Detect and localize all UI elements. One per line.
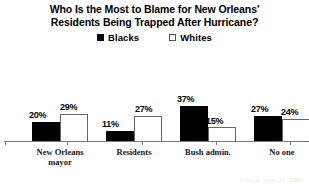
category-label-no-one: No one	[232, 147, 309, 157]
bar-value-label-whites-2: 15%	[206, 116, 223, 126]
bar-blacks-0	[32, 122, 60, 142]
legend-label-whites: Whites	[180, 32, 212, 43]
bar-value-label-blacks-1: 11%	[102, 119, 119, 129]
bar-wrap-whites-2: 15%	[208, 52, 236, 142]
bar-wrap-whites-0: 29%	[60, 52, 88, 142]
x-axis-line	[4, 141, 305, 142]
x-axis-tick	[67, 141, 68, 145]
bar-value-label-whites-0: 29%	[60, 102, 77, 112]
legend-item-whites: Whites	[169, 32, 212, 43]
bar-value-label-blacks-3: 27%	[251, 104, 268, 114]
bar-wrap-whites-3: 24%	[282, 52, 309, 142]
x-axis-tick	[5, 141, 6, 145]
legend-label-blacks: Blacks	[108, 32, 139, 43]
bar-whites-3	[282, 119, 309, 142]
bar-chart-figure: Who Is the Most to Blame for New Orleans…	[0, 0, 309, 184]
bar-whites-2	[208, 127, 236, 142]
bar-wrap-blacks-2: 37%	[180, 52, 208, 142]
bar-whites-1	[134, 116, 162, 142]
bar-wrap-whites-1: 27%	[134, 52, 162, 142]
bar-blacks-3	[254, 116, 282, 142]
chart-legend: Blacks Whites	[0, 32, 309, 43]
x-axis-tick	[290, 141, 291, 145]
bar-value-label-whites-1: 27%	[135, 104, 152, 114]
bar-value-label-whites-3: 24%	[281, 107, 298, 117]
bar-wrap-blacks-1: 11%	[106, 52, 134, 142]
x-axis-category-labels: New Orleans mayor Residents Bush admin. …	[0, 147, 309, 171]
bar-value-label-blacks-2: 37%	[177, 94, 194, 104]
bar-whites-0	[60, 114, 88, 142]
chart-title: Who Is the Most to Blame for New Orleans…	[0, 3, 309, 28]
bar-value-label-blacks-0: 20%	[29, 110, 46, 120]
bar-wrap-blacks-0: 20%	[32, 52, 60, 142]
chart-title-line-1: Who Is the Most to Blame for New Orleans…	[0, 3, 309, 16]
hollow-square-icon	[169, 34, 176, 41]
bar-blacks-2	[180, 106, 208, 142]
legend-item-blacks: Blacks	[97, 32, 139, 43]
x-axis-tick	[142, 141, 143, 145]
source-footnote: Source: Sept. 11, 2005	[240, 176, 303, 184]
bar-wrap-blacks-3: 27%	[254, 52, 282, 142]
plot-area: 20% 29% 11% 27%	[0, 52, 309, 142]
x-axis-tick	[216, 141, 217, 145]
filled-square-icon	[97, 34, 104, 41]
chart-title-line-2: Residents Being Trapped After Hurricane?	[0, 16, 309, 29]
